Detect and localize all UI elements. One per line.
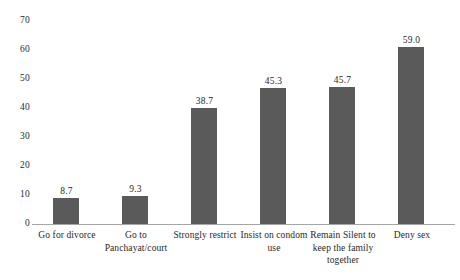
bar-slot: 9.3 <box>101 14 170 224</box>
x-axis-tick-label: Insist on condomuse <box>235 229 313 254</box>
x-axis-tick-label-line: Insist on condom <box>235 229 313 242</box>
y-axis-tick: 20 <box>4 161 30 171</box>
x-axis-tick-label-line: Go to <box>97 229 175 242</box>
bar <box>329 87 355 224</box>
bar-slot: 59.0 <box>377 14 446 224</box>
y-axis-tick: 50 <box>4 74 30 84</box>
x-axis-tick-label: Go for divorce <box>28 229 106 242</box>
x-axis-tick-label-line: keep the family <box>304 242 382 255</box>
y-axis-tick: 10 <box>4 190 30 200</box>
bar <box>191 108 217 224</box>
plot-area: 8.7 9.3 38.7 45.3 45.7 59.0 <box>32 14 455 224</box>
bar-value-label: 45.3 <box>239 76 308 86</box>
bar <box>398 47 424 224</box>
x-axis-tick-label-line: Remain Silent to <box>304 229 382 242</box>
x-axis-tick-label: Go toPanchayat/court <box>97 229 175 254</box>
y-axis-tick: 0 <box>4 219 30 229</box>
bar-value-label: 45.7 <box>308 75 377 85</box>
bar-value-label: 38.7 <box>170 96 239 106</box>
bar <box>53 198 79 224</box>
bar-slot: 45.7 <box>308 14 377 224</box>
bar-slot: 38.7 <box>170 14 239 224</box>
bar-value-label: 8.7 <box>32 186 101 196</box>
y-axis-tick: 40 <box>4 103 30 113</box>
bar-value-label: 59.0 <box>377 35 446 45</box>
x-axis-tick-label: Strongly restrict <box>166 229 244 242</box>
x-axis-tick-label-line: together <box>304 254 382 267</box>
x-axis-tick-label: Deny sex <box>373 229 451 242</box>
bar-slot: 8.7 <box>32 14 101 224</box>
y-axis-tick: 60 <box>4 45 30 55</box>
x-axis-tick-label: Remain Silent tokeep the familytogether <box>304 229 382 267</box>
bar <box>122 196 148 224</box>
y-axis-tick: 30 <box>4 132 30 142</box>
bar-chart: 70 60 50 40 30 20 10 0 8.7 9.3 38.7 45.3… <box>0 0 460 280</box>
y-axis: 70 60 50 40 30 20 10 0 <box>0 0 30 280</box>
x-axis-category-labels: Go for divorce Go toPanchayat/court Stro… <box>32 229 455 279</box>
x-axis-tick-label-line: use <box>235 242 313 255</box>
x-axis-tick-label-line: Panchayat/court <box>97 242 175 255</box>
x-axis-tick-label-line: Strongly restrict <box>166 229 244 242</box>
bar-value-label: 9.3 <box>101 184 170 194</box>
bar <box>260 88 286 224</box>
x-axis-tick-label-line: Go for divorce <box>28 229 106 242</box>
x-axis-baseline <box>32 224 455 225</box>
x-axis-tick-label-line: Deny sex <box>373 229 451 242</box>
y-axis-tick: 70 <box>4 16 30 26</box>
bar-slot: 45.3 <box>239 14 308 224</box>
